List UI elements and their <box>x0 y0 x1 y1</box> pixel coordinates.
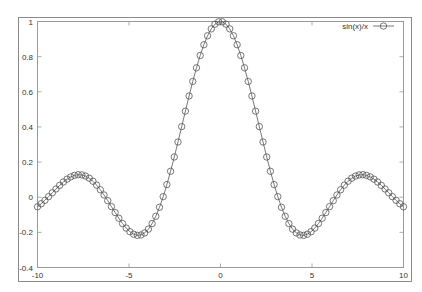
x-tick-label: -5 <box>125 271 133 280</box>
y-tick-label: 0.8 <box>22 53 34 62</box>
y-tick-label: 1 <box>29 18 34 27</box>
y-tick-label: 0.4 <box>22 123 34 132</box>
x-tick-label: 10 <box>399 271 408 280</box>
y-tick-label: -0.2 <box>19 228 33 237</box>
outer-frame <box>19 18 412 282</box>
legend-label: sin(x)/x <box>342 22 368 31</box>
x-tick-label: 5 <box>310 271 315 280</box>
y-tick-label: 0.6 <box>22 88 34 97</box>
series-line <box>38 22 404 236</box>
plot-area-border <box>38 22 404 268</box>
y-tick-label: 0 <box>29 193 34 202</box>
axis-ticks <box>38 22 404 268</box>
chart-canvas: -10-50510 -0.4-0.200.20.40.60.81 sin(x)/… <box>0 0 422 292</box>
y-tick-label: 0.2 <box>22 158 34 167</box>
y-axis-tick-labels: -0.4-0.200.20.40.60.81 <box>19 18 33 273</box>
x-tick-label: 0 <box>218 271 223 280</box>
y-tick-label: -0.4 <box>19 264 33 273</box>
legend: sin(x)/x <box>342 22 394 31</box>
x-axis-tick-labels: -10-50510 <box>32 271 409 280</box>
series-sinx-over-x <box>34 19 406 239</box>
x-tick-label: -10 <box>32 271 44 280</box>
series-markers <box>34 19 406 239</box>
